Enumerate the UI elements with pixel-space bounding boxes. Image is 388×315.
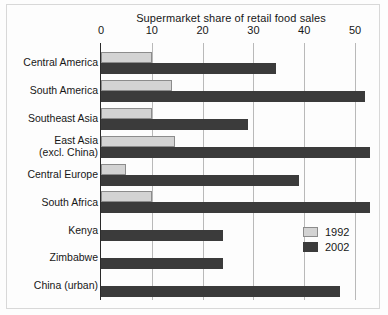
bar (101, 230, 223, 241)
x-tick-label-0: 0 (98, 24, 104, 36)
legend-label: 1992 (325, 226, 349, 238)
x-tick-label-50: 50 (349, 24, 361, 36)
gridline-40 (304, 43, 305, 300)
chart-figure: Supermarket share of retail food sales C… (0, 0, 388, 315)
legend-item: 1992 (303, 224, 349, 239)
category-label: East Asia (excl. China) (2, 135, 98, 158)
bar (101, 136, 175, 147)
category-axis-labels: Central AmericaSouth AmericaSoutheast As… (0, 49, 98, 300)
bar (101, 80, 172, 91)
category-label: Zimbabwe (2, 252, 98, 264)
bar (101, 191, 152, 202)
category-label: Kenya (2, 225, 98, 237)
category-label: Central Europe (2, 169, 98, 181)
category-label: China (urban) (2, 280, 98, 292)
x-tick-label-40: 40 (298, 24, 310, 36)
bar (101, 91, 365, 102)
bar (101, 63, 276, 74)
x-tick-label-30: 30 (247, 24, 259, 36)
x-tick-label-10: 10 (146, 24, 158, 36)
bar (101, 258, 223, 269)
legend-swatch-icon (303, 227, 318, 237)
legend-label: 2002 (325, 241, 349, 253)
bar (101, 164, 126, 175)
bar (101, 175, 299, 186)
bar (101, 286, 340, 297)
gridline-30 (253, 43, 254, 300)
category-label: Southeast Asia (2, 113, 98, 125)
chart-title: Supermarket share of retail food sales (101, 12, 361, 24)
gridline-50 (355, 43, 356, 300)
category-label: South Africa (2, 197, 98, 209)
legend-item: 2002 (303, 239, 349, 254)
plot-area: 01020304050 (101, 49, 355, 300)
legend-swatch-icon (303, 242, 318, 252)
category-label: South America (2, 85, 98, 97)
bar (101, 202, 370, 213)
bar (101, 108, 152, 119)
x-tick-label-20: 20 (196, 24, 208, 36)
chart-legend: 19922002 (303, 224, 349, 254)
bar (101, 52, 152, 63)
category-label: Central America (2, 57, 98, 69)
bar (101, 119, 248, 130)
bar (101, 147, 370, 158)
